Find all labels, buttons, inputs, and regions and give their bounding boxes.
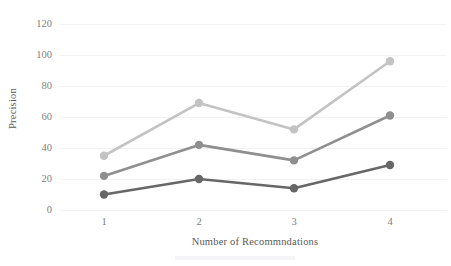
x-axis-title: Number of Recommndations (60, 236, 450, 247)
data-point[interactable] (290, 125, 298, 133)
data-point[interactable] (386, 57, 394, 65)
data-point[interactable] (195, 99, 203, 107)
cropped-legend-artifact (175, 256, 295, 260)
data-point[interactable] (100, 190, 108, 198)
x-tick-label-4: 4 (375, 216, 405, 227)
data-point[interactable] (290, 184, 298, 192)
x-tick-label-3: 3 (279, 216, 309, 227)
series-layer (100, 57, 394, 199)
series-series-dark (100, 161, 394, 199)
x-tick-label-1: 1 (89, 216, 119, 227)
data-point[interactable] (195, 175, 203, 183)
data-point[interactable] (100, 172, 108, 180)
data-point[interactable] (195, 141, 203, 149)
series-series-light (100, 57, 394, 160)
series-line-0 (104, 61, 390, 156)
data-point[interactable] (386, 111, 394, 119)
data-point[interactable] (290, 156, 298, 164)
data-point[interactable] (100, 152, 108, 160)
series-series-medium (100, 111, 394, 180)
x-tick-label-2: 2 (184, 216, 214, 227)
series-line-2 (104, 165, 390, 194)
line-chart: Precision 120 100 80 60 40 20 0 1 2 3 4 … (0, 0, 451, 266)
series-line-1 (104, 115, 390, 175)
data-point[interactable] (386, 161, 394, 169)
